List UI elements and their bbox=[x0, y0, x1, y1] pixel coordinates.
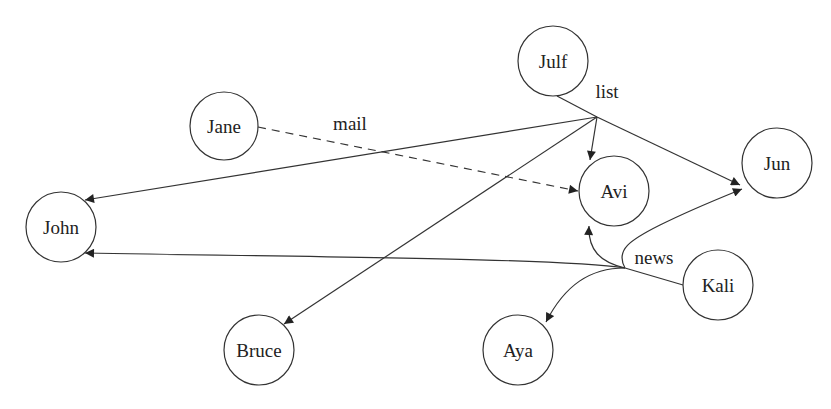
node-jane: Jane bbox=[190, 92, 258, 160]
edge-list-source-julf bbox=[557, 96, 597, 117]
edge-label-news: news bbox=[634, 247, 673, 268]
edge-label-list: list bbox=[595, 81, 619, 102]
node-julf: Julf bbox=[518, 26, 588, 96]
edge-mail: mail bbox=[258, 113, 578, 192]
node-jun: Jun bbox=[742, 128, 812, 198]
edge-list-to-avi bbox=[590, 117, 597, 160]
node-john: John bbox=[26, 192, 96, 262]
edge-list-to-bruce bbox=[284, 117, 597, 324]
node-label-julf: Julf bbox=[539, 51, 568, 72]
edge-news-to-john bbox=[85, 253, 625, 268]
node-label-kali: Kali bbox=[702, 275, 735, 296]
node-label-john: John bbox=[43, 217, 79, 238]
node-label-jane: Jane bbox=[207, 116, 241, 137]
node-label-bruce: Bruce bbox=[236, 340, 281, 361]
edge-news-to-avi bbox=[589, 226, 625, 268]
node-label-avi: Avi bbox=[600, 181, 627, 202]
node-avi: Avi bbox=[579, 156, 649, 226]
edge-mail-jane-to-avi bbox=[258, 127, 578, 191]
edge-label-mail: mail bbox=[333, 113, 367, 134]
hypergraph-diagram: list mail news Julf Jane John bbox=[0, 0, 831, 409]
edge-news-source-kali bbox=[625, 268, 683, 285]
node-label-jun: Jun bbox=[764, 153, 791, 174]
edge-news-to-aya bbox=[546, 268, 625, 322]
node-label-aya: Aya bbox=[503, 340, 533, 361]
node-kali: Kali bbox=[683, 250, 753, 320]
node-aya: Aya bbox=[483, 315, 553, 385]
node-bruce: Bruce bbox=[224, 315, 294, 385]
